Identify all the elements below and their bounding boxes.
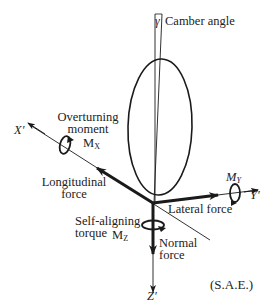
self-aligning-line2: torque <box>75 227 140 239</box>
my-main: M <box>226 170 236 184</box>
normal-force-label: Normal force <box>159 237 197 261</box>
tire-outline <box>126 58 194 196</box>
my-sub: Y <box>236 176 240 185</box>
normal-line2: force <box>159 249 197 261</box>
self-aligning-torque-label: Self-aligning torque <box>75 215 140 239</box>
longitudinal-line2: force <box>34 188 114 200</box>
y-axis-label: Y′ <box>250 189 260 201</box>
camber-symbol: γ <box>155 15 160 27</box>
mx-label: MX <box>83 137 100 153</box>
tire-axis-diagram: γ Camber angle Overturning moment MX X′ … <box>0 0 272 307</box>
sae-convention-label: (S.A.E.) <box>210 279 253 291</box>
mz-main: M <box>112 228 123 242</box>
z-axis-label: Z′ <box>147 290 157 302</box>
mz-label: MZ <box>112 229 128 245</box>
overturning-line2: moment <box>52 123 124 135</box>
my-label: MY <box>226 171 241 187</box>
mx-main: M <box>83 136 94 150</box>
overturning-moment-label: Overturning moment <box>52 111 124 135</box>
mx-sub: X <box>94 142 100 151</box>
x-axis-arrow <box>28 123 45 134</box>
lateral-force-label: Lateral force <box>168 203 232 215</box>
x-axis-label: X′ <box>14 124 24 136</box>
diagram-drawing <box>0 0 272 307</box>
mz-sub: Z <box>123 234 128 243</box>
camber-angle-label: Camber angle <box>165 15 235 27</box>
longitudinal-force-label: Longitudinal force <box>34 176 114 200</box>
